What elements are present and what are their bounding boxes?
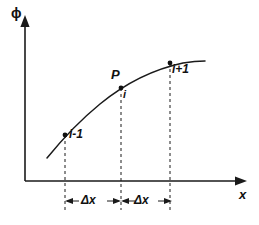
delta-x-right-arrowhead-left xyxy=(121,198,129,204)
delta-x-left-arrowhead-left xyxy=(65,198,73,204)
node-marker-i-minus-1 xyxy=(63,133,68,138)
x-axis-label: x xyxy=(239,188,246,201)
delta-x-right-label: Δx xyxy=(134,194,149,206)
node-label-i-minus-1: i-1 xyxy=(69,128,83,140)
phi-axis-arrowhead xyxy=(20,15,29,27)
delta-x-left-arrowhead-right xyxy=(113,198,121,204)
finite-difference-diagram: ϕ x P i-1 i i+1 Δx Δx xyxy=(0,0,259,225)
phi-axis-label: ϕ xyxy=(11,6,22,20)
phi-axis xyxy=(20,15,29,181)
delta-x-right-arrowhead-right xyxy=(164,198,172,204)
node-label-i: i xyxy=(123,89,126,100)
x-axis-arrowhead xyxy=(235,176,247,185)
delta-x-left-label: Δx xyxy=(81,194,96,206)
diagram-canvas xyxy=(0,0,259,225)
node-label-i-plus-1: i+1 xyxy=(172,63,189,75)
point-P-label: P xyxy=(111,68,120,81)
x-axis xyxy=(25,176,247,185)
